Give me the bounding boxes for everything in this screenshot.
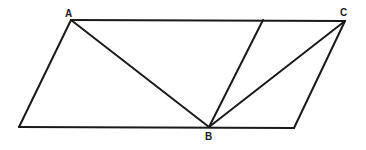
segment-a-c	[71, 20, 345, 21]
segment-b-t	[209, 20, 263, 127]
segment-b-c	[209, 21, 345, 127]
label-a: A	[65, 8, 72, 19]
label-b: B	[205, 131, 212, 142]
segment-c-br	[294, 21, 345, 128]
segment-br-bl	[19, 127, 294, 128]
segment-bl-a	[19, 20, 71, 127]
segment-a-b	[71, 20, 209, 127]
geometry-diagram: A C B	[0, 0, 366, 150]
label-c: C	[340, 7, 347, 18]
